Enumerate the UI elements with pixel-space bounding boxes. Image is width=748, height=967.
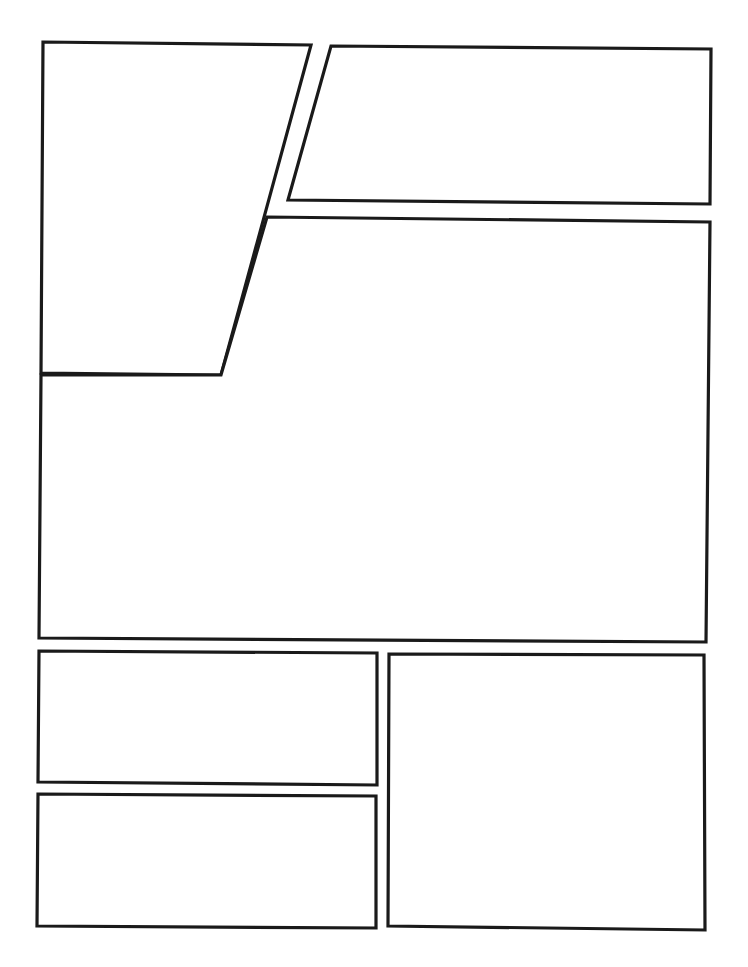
- panel-layout: [0, 0, 748, 967]
- panel-2: [288, 46, 711, 204]
- panel-6: [388, 654, 705, 930]
- comic-page-template: [0, 0, 748, 967]
- panel-5: [37, 794, 376, 928]
- panel-4: [38, 651, 377, 785]
